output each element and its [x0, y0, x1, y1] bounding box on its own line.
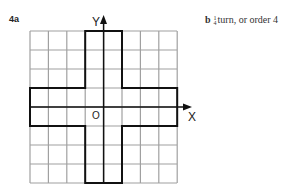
- y-arrow-icon: [100, 15, 107, 24]
- y-axis-label: Y: [92, 15, 100, 29]
- origin-label: O: [92, 110, 100, 121]
- x-axis-label: X: [188, 110, 196, 124]
- cross-shape-grid: [0, 0, 306, 193]
